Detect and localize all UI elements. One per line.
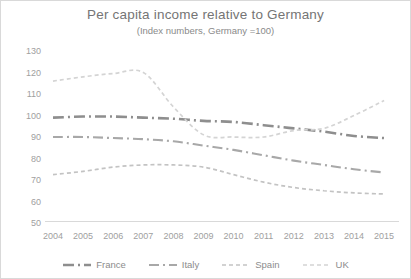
y-tick-label: 100 <box>26 111 41 121</box>
legend-item-italy: Italy <box>148 259 199 270</box>
chart-legend: FranceItalySpainUK <box>1 259 410 270</box>
x-tick-label: 2013 <box>314 231 334 241</box>
series-line-uk <box>53 70 384 138</box>
legend-label-spain: Spain <box>255 259 279 270</box>
x-tick-label: 2015 <box>374 231 394 241</box>
x-tick-label: 2009 <box>193 231 213 241</box>
x-tick-label: 2012 <box>284 231 304 241</box>
y-tick-label: 90 <box>31 132 41 142</box>
x-tick-label: 2010 <box>224 231 244 241</box>
y-tick-label: 130 <box>26 46 41 56</box>
y-tick-label: 110 <box>27 89 41 99</box>
y-tick-label: 80 <box>31 154 41 164</box>
x-tick-label: 2005 <box>73 231 93 241</box>
legend-marker-uk <box>302 261 332 269</box>
y-tick-label: 60 <box>31 197 41 207</box>
legend-label-uk: UK <box>336 259 349 270</box>
x-tick-label: 2006 <box>103 231 123 241</box>
plot-area: 5060708090100110120130200420052006200720… <box>1 1 411 279</box>
x-tick-label: 2007 <box>133 231 153 241</box>
y-tick-label: 70 <box>31 175 41 185</box>
legend-item-uk: UK <box>302 259 349 270</box>
legend-marker-france <box>62 261 92 269</box>
legend-marker-italy <box>148 261 178 269</box>
chart-container: Per capita income relative to Germany (I… <box>0 0 411 279</box>
legend-item-spain: Spain <box>221 259 279 270</box>
legend-label-france: France <box>96 259 126 270</box>
legend-item-france: France <box>62 259 126 270</box>
x-tick-label: 2011 <box>254 231 273 241</box>
legend-label-italy: Italy <box>182 259 199 270</box>
y-tick-label: 50 <box>31 218 41 228</box>
legend-marker-spain <box>221 261 251 269</box>
y-tick-label: 120 <box>26 68 41 78</box>
series-line-france <box>53 116 384 138</box>
x-tick-label: 2004 <box>43 231 63 241</box>
x-tick-label: 2008 <box>163 231 183 241</box>
series-line-spain <box>53 165 384 194</box>
series-line-italy <box>53 137 384 173</box>
x-tick-label: 2014 <box>344 231 364 241</box>
